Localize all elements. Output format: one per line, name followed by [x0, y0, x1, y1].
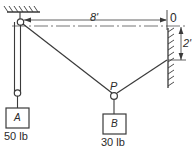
origin-label: 0 — [170, 12, 177, 24]
cable-p-to-wall — [117, 60, 167, 93]
joint-p-label: P — [110, 81, 117, 92]
block-a-weight-label: 50 lb — [4, 131, 28, 142]
block-a-label: A — [14, 113, 21, 123]
ceiling-pulley-icon — [17, 19, 23, 25]
statics-figure: 8' 0 2' P A 50 lb B 30 lb — [0, 0, 195, 152]
height-dimension-label: 2' — [183, 38, 191, 49]
joint-p-icon — [111, 93, 118, 100]
cable-pulley-to-p — [23, 24, 112, 93]
left-vertical-cable — [15, 22, 21, 92]
wall-support — [168, 28, 174, 88]
block-a-ring-icon — [14, 90, 20, 96]
block-b-label: B — [111, 119, 118, 129]
ceiling-support — [4, 6, 40, 19]
span-dimension-label: 8' — [90, 12, 98, 23]
block-b-weight-label: 30 lb — [101, 137, 125, 148]
